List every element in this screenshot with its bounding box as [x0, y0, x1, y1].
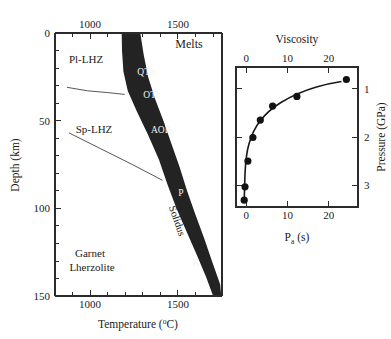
data-point [343, 76, 350, 83]
figure-container: 1000 1500 1000 1500 [0, 0, 391, 339]
band-label-k: K [193, 258, 200, 268]
data-point [293, 93, 300, 100]
inset-right-tick-label-3: 3 [364, 179, 370, 191]
main-plot-y-axis-title: Depth (km) [9, 138, 22, 192]
bottom-axis-tick-label-1000: 1000 [79, 298, 102, 310]
field-label-pl-lhz: Pl-LHZ [69, 53, 104, 65]
inset-x-title-tail: (s) [294, 231, 309, 244]
inset-top-axis-ticks [246, 67, 328, 73]
left-axis-tick-label-150: 150 [34, 290, 51, 302]
inset-right-tick-label-2: 2 [364, 131, 370, 143]
viscosity-curve [244, 82, 341, 201]
phase-diagram-svg: 1000 1500 1000 1500 [0, 0, 391, 339]
inset-right-tick-label-1: 1 [364, 83, 370, 95]
data-point [241, 197, 248, 204]
main-plot-x-axis-title: Temperature (oC) [98, 317, 178, 331]
x-axis-title-tail: C) [166, 318, 178, 331]
inset-x-axis-title: Pa (s) [285, 231, 310, 246]
inset-bottom-tick-label-20: 20 [323, 209, 335, 221]
inset-right-axis-ticks [352, 89, 358, 186]
inset-top-tick-label-0: 0 [244, 52, 250, 64]
band-label-oth: OTh [143, 90, 161, 100]
inset-top-tick-label-10: 10 [282, 52, 294, 64]
band-label-p: P [178, 188, 183, 198]
viscosity-data-points [241, 76, 350, 204]
inset-title: Viscosity [276, 33, 319, 46]
left-axis-tick-label-0: 0 [45, 27, 51, 39]
inset-left-axis-ticks [236, 89, 242, 186]
data-point [249, 134, 256, 141]
top-axis-tick-label-1000: 1000 [79, 18, 102, 30]
inset-top-tick-label-20: 20 [323, 52, 335, 64]
bottom-axis-tick-label-1500: 1500 [167, 298, 190, 310]
inset-bottom-tick-label-10: 10 [282, 209, 294, 221]
left-axis-major-ticks [55, 33, 61, 296]
field-label-melts: Melts [175, 37, 203, 51]
plagioclase-spinel-boundary [67, 87, 125, 94]
band-label-qth: QTh [137, 67, 155, 77]
data-point [241, 183, 248, 190]
inset-viscosity-plot: Viscosity 0 10 20 0 10 20 [236, 33, 388, 246]
inset-bottom-tick-label-0: 0 [244, 209, 250, 221]
left-axis-tick-label-50: 50 [39, 115, 51, 127]
data-point [269, 103, 276, 110]
field-label-lherzolite: Lherzolite [69, 261, 114, 273]
data-point [257, 117, 264, 124]
bottom-axis-major-ticks [90, 290, 178, 296]
field-label-sp-lhz: Sp-LHZ [76, 123, 113, 135]
left-axis-tick-label-100: 100 [34, 202, 51, 214]
band-label-aob: AOB [151, 125, 171, 135]
spinel-garnet-boundary [69, 133, 163, 180]
main-plot: 1000 1500 1000 1500 [9, 18, 222, 331]
svg-text:Temperature (oC): Temperature (oC) [98, 317, 178, 331]
top-axis-tick-label-1500: 1500 [167, 18, 190, 30]
x-axis-title-head: Temperature ( [98, 318, 163, 331]
inset-y-axis-title: Pressure (GPa) [375, 102, 388, 171]
left-axis-minor-ticks [55, 51, 59, 279]
data-point [244, 158, 251, 165]
field-label-garnet: Garnet [75, 247, 105, 259]
bottom-axis-minor-ticks [73, 292, 214, 296]
inset-bottom-axis-ticks [246, 201, 328, 207]
